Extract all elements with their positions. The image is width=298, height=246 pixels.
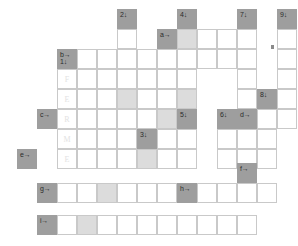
answer-cell[interactable]: [77, 49, 97, 69]
answer-cell[interactable]: [177, 49, 197, 69]
clue-marker-cell[interactable]: 4↓: [177, 9, 197, 29]
answer-cell[interactable]: [177, 215, 197, 235]
shaded-answer-cell[interactable]: [157, 109, 177, 129]
answer-cell[interactable]: [217, 215, 237, 235]
answer-cell[interactable]: [97, 109, 117, 129]
answer-cell[interactable]: [197, 215, 217, 235]
answer-cell[interactable]: [257, 183, 277, 203]
answer-cell[interactable]: [277, 89, 297, 109]
answer-cell[interactable]: [117, 69, 137, 89]
answer-cell[interactable]: [217, 29, 237, 49]
clue-marker-cell[interactable]: e→: [17, 149, 37, 169]
clue-marker-cell[interactable]: 7↓: [237, 9, 257, 29]
shaded-answer-cell[interactable]: [177, 89, 197, 109]
answer-cell[interactable]: [237, 29, 257, 49]
answer-cell[interactable]: [157, 129, 177, 149]
answer-cell[interactable]: [197, 183, 217, 203]
answer-cell[interactable]: [277, 69, 297, 89]
answer-cell[interactable]: [277, 49, 297, 69]
answer-cell[interactable]: [277, 109, 297, 129]
answer-cell[interactable]: [117, 49, 137, 69]
answer-cell[interactable]: [217, 183, 237, 203]
answer-cell[interactable]: [177, 129, 197, 149]
clue-marker-cell[interactable]: d→: [237, 109, 257, 129]
answer-cell[interactable]: [157, 149, 177, 169]
clue-marker-cell[interactable]: 6↓: [217, 109, 237, 129]
answer-cell[interactable]: [97, 129, 117, 149]
answer-cell[interactable]: [237, 49, 257, 69]
clue-marker-cell[interactable]: 8↓: [257, 89, 277, 109]
shaded-answer-cell[interactable]: [117, 89, 137, 109]
answer-cell[interactable]: [277, 29, 297, 49]
answer-cell[interactable]: R: [57, 109, 77, 129]
answer-cell[interactable]: [237, 183, 257, 203]
answer-cell[interactable]: [117, 183, 137, 203]
answer-cell[interactable]: [77, 129, 97, 149]
clue-label: 3↓: [140, 131, 147, 139]
answer-cell[interactable]: [117, 129, 137, 149]
answer-cell[interactable]: [257, 129, 277, 149]
answer-cell[interactable]: [257, 109, 277, 129]
answer-cell[interactable]: [197, 29, 217, 49]
answer-cell[interactable]: [217, 149, 237, 169]
clue-marker-cell[interactable]: g→: [37, 183, 57, 203]
crossword-grid[interactable]: 2↓4↓7↓9↓a→b→1↓FE8↓c→R5↓6↓d→M3↓e→Ef→g→h→i…: [0, 0, 298, 246]
answer-cell[interactable]: [117, 215, 137, 235]
answer-cell[interactable]: E: [57, 149, 77, 169]
answer-cell[interactable]: [257, 149, 277, 169]
answer-cell[interactable]: [97, 215, 117, 235]
clue-marker-cell[interactable]: b→1↓: [57, 49, 77, 69]
answer-cell[interactable]: [77, 109, 97, 129]
clue-marker-cell[interactable]: 5↓: [177, 109, 197, 129]
answer-cell[interactable]: [137, 69, 157, 89]
answer-cell[interactable]: [217, 49, 237, 69]
answer-cell[interactable]: [97, 89, 117, 109]
clue-marker-cell[interactable]: i→: [37, 215, 57, 235]
answer-cell[interactable]: [77, 149, 97, 169]
answer-cell[interactable]: [157, 49, 177, 69]
answer-cell[interactable]: [77, 69, 97, 89]
answer-cell[interactable]: [237, 215, 257, 235]
answer-cell[interactable]: [137, 183, 157, 203]
shaded-answer-cell[interactable]: [177, 29, 197, 49]
answer-cell[interactable]: [157, 69, 177, 89]
answer-cell[interactable]: [137, 89, 157, 109]
answer-cell[interactable]: [197, 49, 217, 69]
clue-label: d→: [240, 111, 251, 119]
clue-marker-cell[interactable]: 2↓: [117, 9, 137, 29]
answer-cell[interactable]: [57, 183, 77, 203]
answer-cell[interactable]: [117, 149, 137, 169]
clue-marker-cell[interactable]: 3↓: [137, 129, 157, 149]
answer-cell[interactable]: [77, 89, 97, 109]
answer-cell[interactable]: [237, 69, 257, 89]
clue-marker-cell[interactable]: h→: [177, 183, 197, 203]
answer-cell[interactable]: [97, 69, 117, 89]
answer-cell[interactable]: [117, 29, 137, 49]
answer-cell[interactable]: [237, 89, 257, 109]
answer-cell[interactable]: [237, 129, 257, 149]
shaded-answer-cell[interactable]: [77, 215, 97, 235]
answer-cell[interactable]: F: [57, 69, 77, 89]
clue-marker-cell[interactable]: a→: [157, 29, 177, 49]
answer-cell[interactable]: [157, 215, 177, 235]
answer-cell[interactable]: [137, 49, 157, 69]
answer-cell[interactable]: [217, 129, 237, 149]
answer-cell[interactable]: M: [57, 129, 77, 149]
shaded-answer-cell[interactable]: [137, 149, 157, 169]
answer-cell[interactable]: [177, 149, 197, 169]
clue-marker-cell[interactable]: f→: [237, 163, 257, 183]
answer-cell[interactable]: [137, 109, 157, 129]
clue-marker-cell[interactable]: c→: [37, 109, 57, 129]
answer-cell[interactable]: [77, 183, 97, 203]
answer-cell[interactable]: [57, 215, 77, 235]
shaded-answer-cell[interactable]: [97, 183, 117, 203]
answer-cell[interactable]: [157, 89, 177, 109]
clue-marker-cell[interactable]: 9↓: [277, 9, 297, 29]
answer-cell[interactable]: E: [57, 89, 77, 109]
answer-cell[interactable]: [177, 69, 197, 89]
answer-cell[interactable]: [137, 215, 157, 235]
answer-cell[interactable]: [117, 109, 137, 129]
answer-cell[interactable]: [97, 49, 117, 69]
answer-cell[interactable]: [97, 149, 117, 169]
answer-cell[interactable]: [157, 183, 177, 203]
